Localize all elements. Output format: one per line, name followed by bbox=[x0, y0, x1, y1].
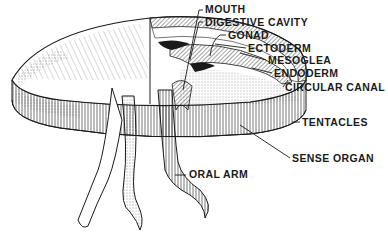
label-gonad: GONAD bbox=[228, 29, 269, 41]
jellyfish-diagram: MOUTH DIGESTIVE CAVITY GONAD ECTODERM ME… bbox=[0, 0, 388, 242]
label-sense-organ: SENSE ORGAN bbox=[292, 152, 374, 164]
label-circular-canal: CIRCULAR CANAL bbox=[285, 81, 385, 93]
label-oral-arm: ORAL ARM bbox=[189, 168, 248, 180]
label-digestive-cavity: DIGESTIVE CAVITY bbox=[205, 16, 308, 28]
label-endoderm: ENDODERM bbox=[274, 67, 338, 79]
label-mesoglea: MESOGLEA bbox=[268, 54, 331, 66]
label-ectoderm: ECTODERM bbox=[248, 42, 311, 54]
label-mouth: MOUTH bbox=[205, 3, 246, 15]
label-tentacles: TENTACLES bbox=[302, 116, 368, 128]
